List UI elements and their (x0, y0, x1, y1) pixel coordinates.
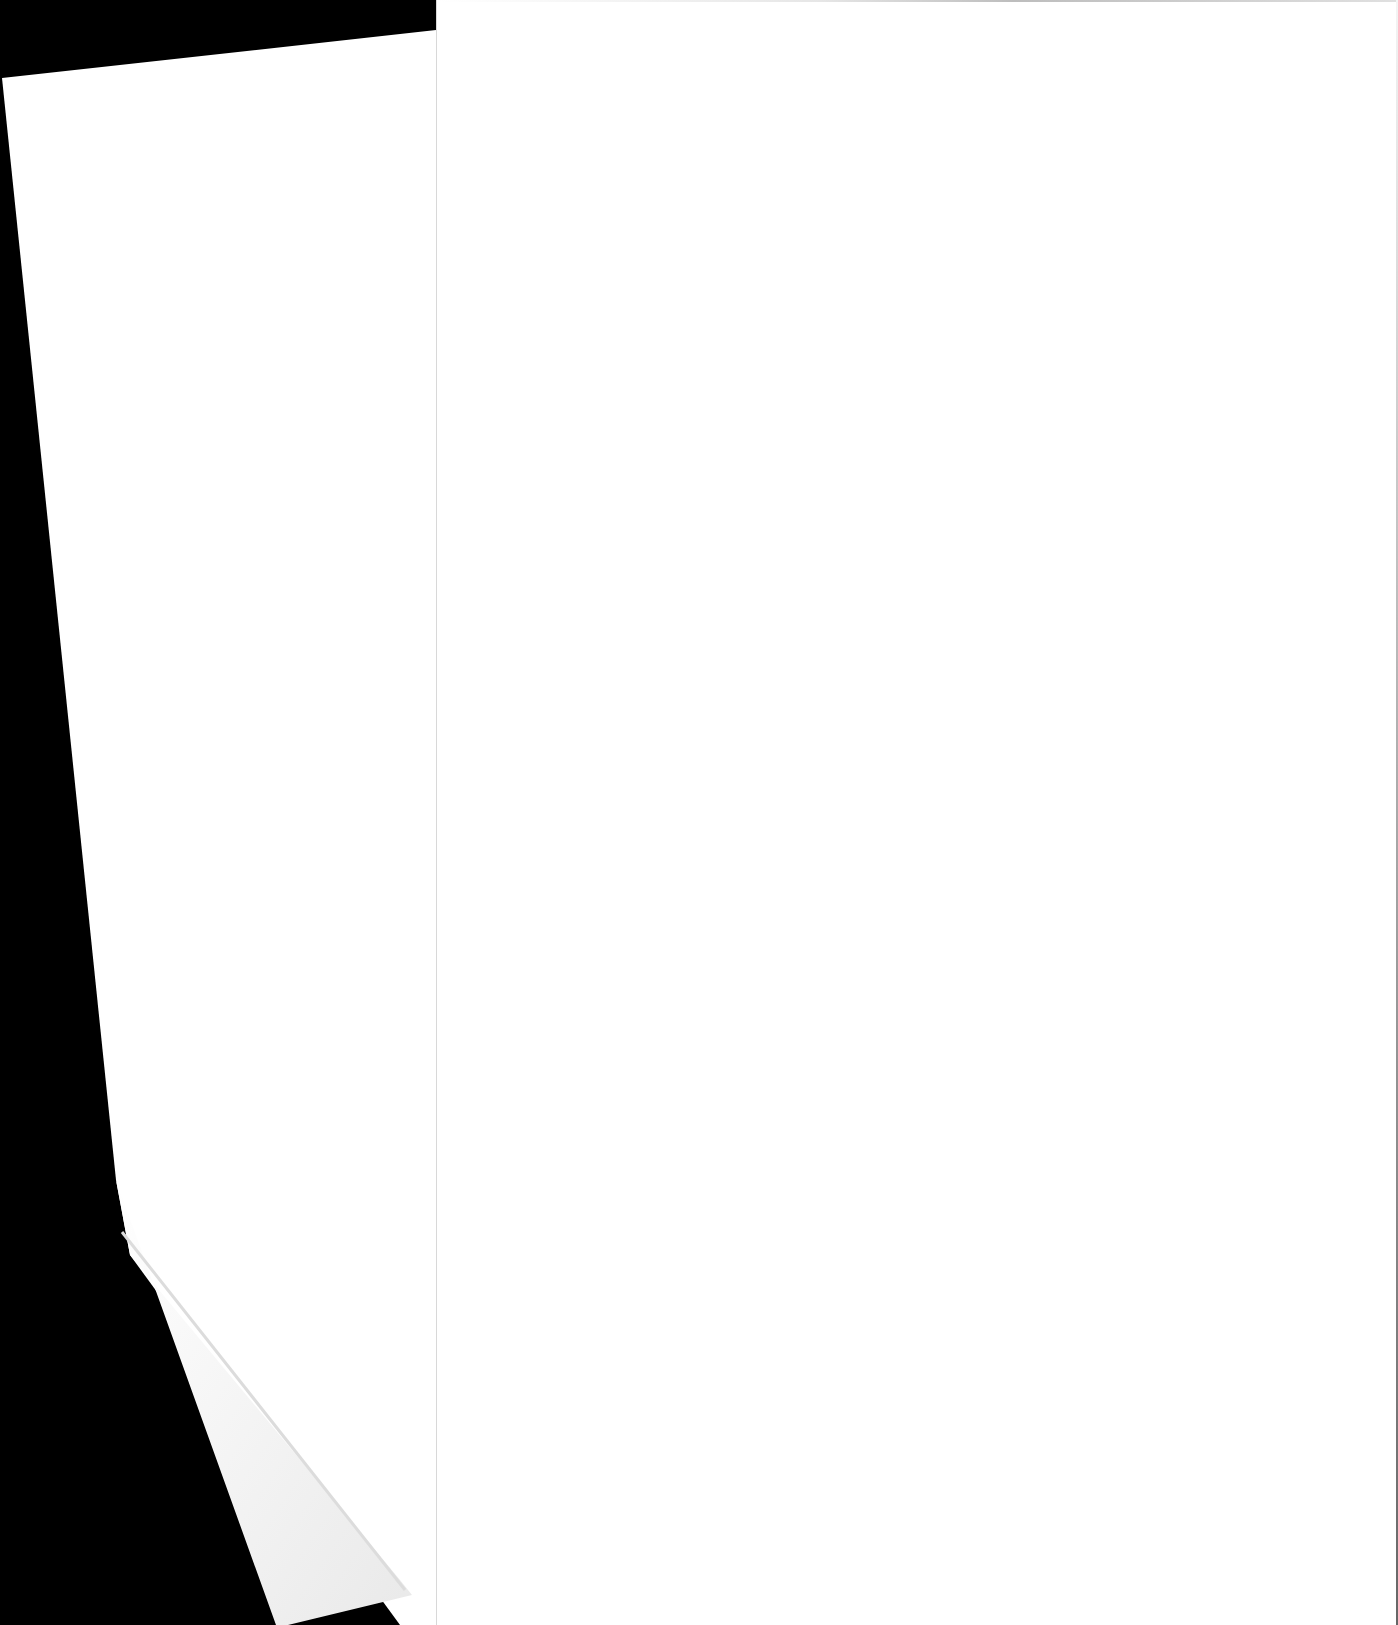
right-page (436, 0, 1398, 1625)
left-sheet-text (0, 0, 1, 1)
right-page-text (437, 0, 438, 1)
scan-scene (0, 0, 1398, 1625)
right-page-top-edge (437, 0, 1398, 2)
